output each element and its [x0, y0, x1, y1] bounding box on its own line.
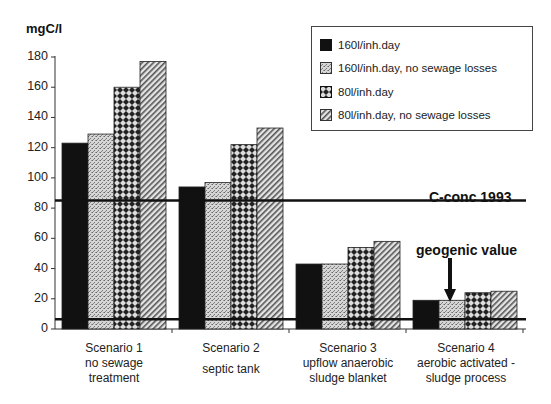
y-tick-label: 0 — [18, 321, 48, 336]
y-tick-label: 20 — [18, 291, 48, 306]
y-axis-label: mgC/l — [26, 21, 62, 36]
bar — [231, 145, 257, 329]
bar — [491, 291, 517, 329]
bar — [348, 247, 374, 329]
swatch-solid-icon — [320, 39, 332, 51]
bar — [439, 300, 465, 329]
swatch-crosshatch-icon — [320, 86, 332, 98]
bar — [465, 293, 491, 329]
bar — [62, 143, 88, 329]
legend-item: 80l/inh.day, no sewage losses — [320, 104, 524, 128]
bar — [179, 187, 205, 329]
y-tick-label: 180 — [18, 49, 48, 64]
y-tick-label: 140 — [18, 109, 48, 124]
y-tick-label: 40 — [18, 261, 48, 276]
c-conc-1993-annotation: C-conc 1993 — [429, 189, 511, 205]
y-tick-label: 80 — [18, 200, 48, 215]
swatch-diagonal-icon — [320, 109, 332, 121]
legend: 160l/inh.day 160l/inh.day, no sewage los… — [311, 26, 533, 131]
bar — [374, 241, 400, 329]
y-tick-label: 120 — [18, 140, 48, 155]
bar — [140, 62, 166, 329]
bar — [88, 134, 114, 329]
swatch-stipple-icon — [320, 62, 332, 74]
category-label: Scenario 3upflow anaerobicsludge blanket — [288, 341, 408, 386]
legend-item: 160l/inh.day, no sewage losses — [320, 57, 524, 81]
legend-item: 160l/inh.day — [320, 33, 524, 57]
bar — [205, 182, 231, 329]
category-label: Scenario 2septic tank — [171, 341, 291, 377]
bar — [413, 300, 439, 329]
bar — [114, 87, 140, 329]
category-label: Scenario 4aerobic activated -sludge proc… — [406, 341, 526, 386]
category-label: Scenario 1no sewagetreatment — [54, 341, 174, 386]
y-tick-label: 100 — [18, 170, 48, 185]
legend-item: 80l/inh.day — [320, 80, 524, 104]
geogenic-value-annotation: geogenic value — [416, 242, 517, 258]
y-tick-label: 60 — [18, 230, 48, 245]
y-tick-label: 160 — [18, 79, 48, 94]
bar — [257, 128, 283, 329]
